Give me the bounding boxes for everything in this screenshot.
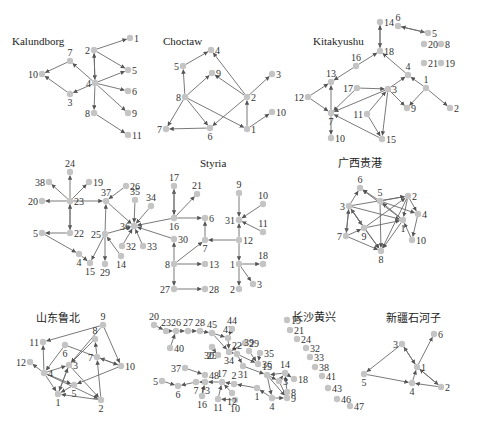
node-label: 7 xyxy=(203,243,208,254)
node-label: 18 xyxy=(258,250,268,261)
graph-node xyxy=(39,230,45,236)
node-label: 10 xyxy=(125,361,135,372)
node-label: 8 xyxy=(445,39,450,50)
graph-node xyxy=(219,379,225,385)
node-label: 5 xyxy=(153,376,158,387)
graph-node xyxy=(148,203,154,209)
directed-edge xyxy=(311,99,328,111)
directed-edge xyxy=(62,395,98,400)
node-label: 11 xyxy=(353,109,363,120)
node-label: 2 xyxy=(412,191,417,202)
node-label: 23 xyxy=(161,317,171,328)
node-label: 6 xyxy=(358,174,363,185)
graph-node xyxy=(328,79,334,85)
graph-node xyxy=(244,126,250,132)
graph-node xyxy=(194,191,200,197)
graph-node xyxy=(353,63,359,69)
node-label: 12 xyxy=(227,396,237,407)
directed-edge xyxy=(81,256,87,261)
directed-edge xyxy=(168,100,183,126)
directed-edge xyxy=(411,77,423,86)
node-label: 26 xyxy=(171,317,181,328)
graph-node xyxy=(180,63,186,69)
node-label: 15 xyxy=(386,134,396,145)
graph-node xyxy=(260,261,266,267)
graph-node xyxy=(334,396,340,402)
node-label: 10 xyxy=(335,133,345,144)
directed-edge xyxy=(134,203,135,222)
node-label: 20 xyxy=(428,39,438,50)
node-label: 2 xyxy=(445,382,450,393)
node-label: 14 xyxy=(384,17,394,28)
directed-edge xyxy=(416,384,438,387)
directed-edge xyxy=(107,237,119,253)
node-label: 35 xyxy=(130,186,140,197)
directed-edge xyxy=(238,357,241,363)
graph-node xyxy=(319,373,325,379)
directed-edge xyxy=(61,387,71,393)
graph-node xyxy=(357,185,363,191)
directed-edge xyxy=(188,369,201,374)
graph-node xyxy=(276,378,282,384)
directed-edge xyxy=(271,373,282,374)
directed-edge xyxy=(105,205,106,231)
directed-edge xyxy=(380,204,381,247)
directed-edge xyxy=(45,62,67,72)
directed-edge xyxy=(186,52,208,65)
node-label: 6 xyxy=(208,131,213,142)
directed-edge xyxy=(404,347,415,364)
graph-node xyxy=(94,354,100,360)
node-label: 22 xyxy=(232,340,242,351)
graph-node xyxy=(447,105,453,111)
node-label: 9 xyxy=(362,231,367,242)
graph-node xyxy=(125,88,131,94)
node-label: 8 xyxy=(165,259,170,270)
directed-edge xyxy=(219,386,221,396)
node-label: 32 xyxy=(126,241,136,252)
graph-node xyxy=(260,201,266,207)
graph-node xyxy=(131,223,137,229)
graph-node xyxy=(215,352,221,358)
node-label: 5 xyxy=(378,187,383,198)
graph-node xyxy=(209,70,215,76)
node-label: 8 xyxy=(93,325,98,336)
graph-node xyxy=(395,23,401,29)
node-label: 4 xyxy=(215,45,220,56)
graph-node xyxy=(305,94,311,100)
directed-edge xyxy=(226,383,231,384)
node-label: 19 xyxy=(93,177,103,188)
graph-node xyxy=(399,341,405,347)
graph-node xyxy=(307,354,313,360)
graph-node xyxy=(287,327,293,333)
node-label: 2 xyxy=(99,403,104,414)
graph-node xyxy=(257,350,263,356)
node-label: 7 xyxy=(157,124,162,135)
directed-edge xyxy=(349,230,361,235)
directed-edge xyxy=(177,242,203,262)
node-label: 48 xyxy=(209,370,219,381)
directed-edge xyxy=(213,99,245,126)
graph-node xyxy=(100,322,106,328)
directed-edge xyxy=(383,223,401,248)
directed-edge xyxy=(367,346,400,372)
graph-node xyxy=(284,389,290,395)
graph-panel: 长沙黄兴123456789101112131415161718192021222… xyxy=(149,310,364,414)
graph-node xyxy=(234,351,240,357)
node-label: 3 xyxy=(283,376,288,387)
graph-node xyxy=(246,348,252,354)
node-label: 43 xyxy=(332,383,342,394)
graph-node xyxy=(92,80,98,86)
graph-node xyxy=(404,105,410,111)
node-label: 3 xyxy=(392,84,397,95)
directed-edge xyxy=(382,92,387,135)
directed-edge xyxy=(138,219,171,226)
node-label: 3 xyxy=(73,360,78,371)
graph-node xyxy=(171,236,177,242)
graph-node xyxy=(66,362,72,368)
graph-node xyxy=(250,281,256,287)
graph-node xyxy=(202,372,208,378)
graph-node xyxy=(202,215,208,221)
node-label: 2 xyxy=(251,92,256,103)
directed-edge xyxy=(228,341,229,348)
node-label: 40 xyxy=(174,343,184,354)
